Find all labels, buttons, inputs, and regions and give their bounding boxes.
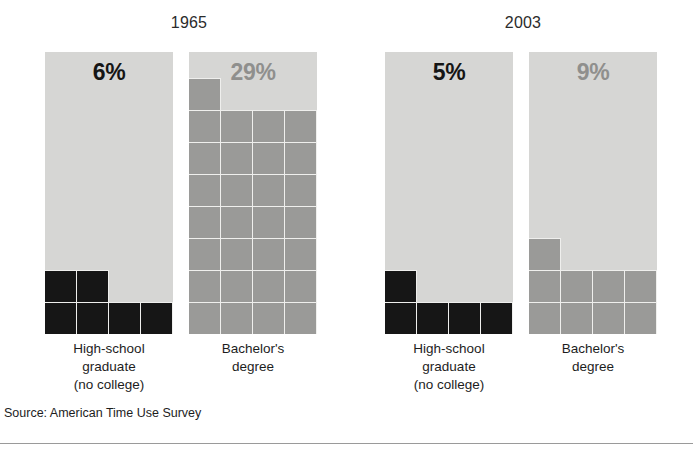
unit-grid <box>385 270 513 334</box>
unit-square <box>529 302 561 334</box>
unit-square <box>253 302 285 334</box>
unit-square <box>45 302 77 334</box>
unit-square <box>221 174 253 206</box>
unit-square <box>385 302 417 334</box>
panel-2003-bachelors: 9% <box>529 52 657 334</box>
unit-square <box>529 270 561 302</box>
year-headings: 1965 2003 <box>0 14 693 40</box>
category-captions: High-school graduate (no college) Bachel… <box>0 340 693 402</box>
unit-square <box>593 270 625 302</box>
unit-grid <box>45 270 173 334</box>
unit-square <box>221 238 253 270</box>
unit-square <box>417 302 449 334</box>
category-label-1965-bachelors: Bachelor's degree <box>189 340 317 376</box>
unit-square <box>593 302 625 334</box>
unit-square <box>189 174 221 206</box>
unit-square <box>189 206 221 238</box>
unit-grid <box>529 238 657 334</box>
unit-square <box>285 142 317 174</box>
unit-square <box>221 110 253 142</box>
panel-value-label: 5% <box>385 60 513 85</box>
unit-square <box>285 270 317 302</box>
year-heading-1965: 1965 <box>45 14 333 32</box>
unit-square <box>109 302 141 334</box>
unit-square <box>625 270 657 302</box>
unit-square <box>449 302 481 334</box>
unit-square <box>285 206 317 238</box>
unit-square <box>529 238 561 270</box>
unit-square <box>253 110 285 142</box>
unit-square <box>77 302 109 334</box>
unit-square <box>77 270 109 302</box>
infographic-unit-chart: 1965 2003 6% 29% 5% 9% High-school gradu… <box>0 0 693 459</box>
unit-square <box>285 238 317 270</box>
category-label-1965-high-school: High-school graduate (no college) <box>45 340 173 394</box>
panel-2003-high-school: 5% <box>385 52 513 334</box>
panels-row: 6% 29% 5% 9% <box>0 52 693 334</box>
unit-square <box>285 110 317 142</box>
unit-square <box>561 302 593 334</box>
unit-square <box>253 142 285 174</box>
unit-square <box>45 270 77 302</box>
unit-square <box>221 206 253 238</box>
panel-1965-bachelors: 29% <box>189 52 317 334</box>
unit-square <box>141 302 173 334</box>
unit-square <box>253 238 285 270</box>
unit-square <box>285 174 317 206</box>
category-label-2003-bachelors: Bachelor's degree <box>529 340 657 376</box>
unit-square <box>189 142 221 174</box>
panel-value-label: 6% <box>45 60 173 85</box>
unit-square <box>221 270 253 302</box>
unit-square <box>189 270 221 302</box>
source-note: Source: American Time Use Survey <box>4 406 201 420</box>
unit-square <box>561 270 593 302</box>
unit-square <box>189 78 221 110</box>
unit-square <box>385 270 417 302</box>
unit-square <box>285 302 317 334</box>
unit-square <box>253 270 285 302</box>
panel-value-label: 9% <box>529 60 657 85</box>
category-label-2003-high-school: High-school graduate (no college) <box>385 340 513 394</box>
unit-grid <box>189 78 317 334</box>
unit-square <box>221 302 253 334</box>
unit-square <box>253 206 285 238</box>
unit-square <box>189 302 221 334</box>
unit-square <box>253 174 285 206</box>
unit-square <box>481 302 513 334</box>
unit-square <box>189 110 221 142</box>
year-heading-2003: 2003 <box>385 14 661 32</box>
bottom-divider <box>0 443 693 444</box>
panel-1965-high-school: 6% <box>45 52 173 334</box>
unit-square <box>625 302 657 334</box>
unit-square <box>189 238 221 270</box>
unit-square <box>221 142 253 174</box>
